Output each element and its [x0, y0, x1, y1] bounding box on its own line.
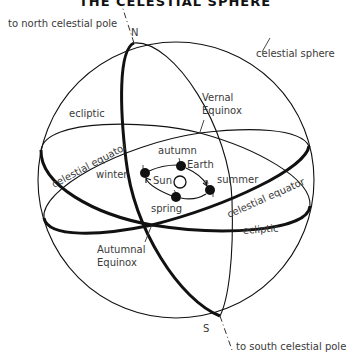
south-pole-axis — [220, 316, 232, 350]
autumnal-equinox-label-1: Autumnal — [97, 244, 145, 255]
orbit-arc-bottom — [181, 194, 206, 199]
orbit-arc-top — [149, 165, 177, 171]
vernal-equinox-label-1: Vernal — [202, 92, 233, 103]
earth-autumn-icon — [176, 161, 186, 171]
celestial-sphere-label: celestial sphere — [256, 48, 335, 59]
ecliptic-lower-label: ecliptic — [242, 223, 278, 236]
diagram-title: THE CELESTIAL SPHERE — [79, 0, 271, 9]
sun-label: Sun — [153, 175, 172, 186]
celestial-equator-left-label: celestial equator — [50, 140, 130, 189]
earth-spring-icon — [171, 192, 181, 202]
earth-label: Earth — [187, 159, 214, 170]
orbit-arc-right — [186, 168, 207, 185]
earth-summer-icon — [205, 185, 215, 195]
summer-label: summer — [217, 174, 259, 185]
winter-label: winter — [96, 169, 128, 180]
autumn-label: autumn — [158, 145, 197, 156]
spring-label: spring — [151, 203, 182, 214]
vernal-equinox-label-2: Equinox — [202, 105, 242, 116]
tick-summer — [207, 180, 208, 184]
ecliptic-upper-label: ecliptic — [69, 108, 105, 119]
north-pole-label: to north celestial pole — [8, 18, 117, 29]
south-label: S — [203, 323, 209, 334]
south-pole-label: to south celestial pole — [236, 341, 346, 352]
earth-winter-icon — [140, 168, 150, 178]
vernal-equinox-leader — [200, 120, 204, 132]
north-label: N — [131, 27, 138, 38]
autumnal-equinox-label-2: Equinox — [97, 257, 137, 268]
sun-icon — [174, 176, 186, 188]
celestial-sphere-diagram: THE CELESTIAL SPHERE to north cel — [0, 0, 350, 361]
